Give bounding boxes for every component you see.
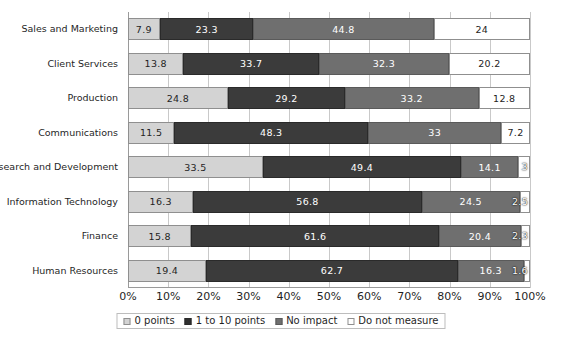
- bar-segment: 62.7: [206, 260, 458, 282]
- legend-item[interactable]: Do not measure: [347, 316, 438, 326]
- gridline-100: [530, 12, 531, 288]
- bar-segment: 2.3: [521, 225, 530, 247]
- bar-segment: 7.9: [128, 18, 160, 40]
- bar-value-label: 23.3: [195, 25, 217, 35]
- bar-segment: 44.8: [253, 18, 433, 40]
- x-tick-label: 80%: [437, 290, 461, 303]
- legend-label: 1 to 10 points: [196, 316, 265, 326]
- bar-value-label: 44.8: [332, 25, 354, 35]
- bar-row: 11.548.3337.2: [128, 122, 530, 144]
- category-label: Communications: [38, 122, 118, 144]
- legend-label: 0 points: [134, 316, 174, 326]
- bar-segment: 3: [518, 156, 530, 178]
- bar-segment: 2.5: [520, 191, 530, 213]
- category-label: Client Services: [47, 53, 118, 75]
- legend-swatch-icon: [185, 318, 192, 325]
- legend-label: No impact: [286, 316, 337, 326]
- category-label: Human Resources: [32, 260, 118, 282]
- category-label: Sales and Marketing: [21, 18, 118, 40]
- bar-value-label: 14.1: [478, 163, 500, 173]
- bar-value-label: 16.3: [480, 266, 502, 276]
- bar-value-label: 2.3: [512, 232, 528, 242]
- bar-value-label: 48.3: [260, 128, 282, 138]
- legend-swatch-icon: [123, 318, 130, 325]
- legend-swatch-icon: [275, 318, 282, 325]
- bar-segment: 14.1: [461, 156, 518, 178]
- bar-segment: 48.3: [174, 122, 368, 144]
- bar-value-label: 20.4: [469, 232, 491, 242]
- bar-value-label: 62.7: [321, 266, 343, 276]
- bar-segment: 33.5: [128, 156, 263, 178]
- plot-area: 7.923.344.82413.833.732.320.224.829.233.…: [128, 12, 530, 288]
- bar-segment: 13.8: [128, 53, 183, 75]
- bar-value-label: 1.6: [512, 266, 528, 276]
- x-tick-label: 100%: [514, 290, 545, 303]
- bar-row: 15.861.620.42.3: [128, 225, 530, 247]
- category-label: Production: [67, 87, 118, 109]
- x-tick-label: 70%: [397, 290, 421, 303]
- bar-segment: 49.4: [263, 156, 462, 178]
- legend-swatch-icon: [347, 318, 354, 325]
- category-axis-labels: Sales and MarketingClient ServicesProduc…: [0, 12, 124, 288]
- bar-row: 16.356.824.52.5: [128, 191, 530, 213]
- bar-value-label: 20.2: [478, 59, 500, 69]
- bar-value-label: 61.6: [304, 232, 326, 242]
- bar-row: 7.923.344.824: [128, 18, 530, 40]
- bar-segment: 1.6: [524, 260, 530, 282]
- x-tick-label: 60%: [357, 290, 381, 303]
- bar-segment: 24.8: [128, 87, 228, 109]
- bar-row: 19.462.716.31.6: [128, 260, 530, 282]
- bar-value-label: 7.9: [136, 25, 152, 35]
- bar-segment: 24.5: [422, 191, 520, 213]
- bar-row: 13.833.732.320.2: [128, 53, 530, 75]
- bar-value-label: 33.2: [401, 94, 423, 104]
- bar-value-label: 24.5: [460, 197, 482, 207]
- bar-segment: 15.8: [128, 225, 191, 247]
- bar-segment: 11.5: [128, 122, 174, 144]
- bar-segment: 19.4: [128, 260, 206, 282]
- bar-segment: 32.3: [319, 53, 449, 75]
- x-tick-label: 40%: [277, 290, 301, 303]
- bar-value-label: 32.3: [373, 59, 395, 69]
- bar-value-label: 13.8: [145, 59, 167, 69]
- x-tick-label: 50%: [317, 290, 341, 303]
- bar-segment: 7.2: [501, 122, 530, 144]
- bar-value-label: 29.2: [275, 94, 297, 104]
- x-tick-label: 0%: [119, 290, 136, 303]
- bar-segment: 12.8: [479, 87, 530, 109]
- bar-value-label: 24: [475, 25, 488, 35]
- legend-item[interactable]: 0 points: [123, 316, 174, 326]
- bar-value-label: 15.8: [149, 232, 171, 242]
- bar-value-label: 7.2: [507, 128, 523, 138]
- bar-segment: 20.2: [449, 53, 530, 75]
- bar-value-label: 24.8: [167, 94, 189, 104]
- bar-value-label: 56.8: [296, 197, 318, 207]
- category-label: Information Technology: [7, 191, 118, 213]
- bar-value-label: 3: [522, 163, 528, 173]
- bar-segment: 56.8: [193, 191, 421, 213]
- chart-legend: 0 points1 to 10 pointsNo impactDo not me…: [116, 313, 445, 329]
- x-tick-label: 90%: [478, 290, 502, 303]
- x-tick-label: 20%: [196, 290, 220, 303]
- bar-value-label: 19.4: [156, 266, 178, 276]
- legend-item[interactable]: 1 to 10 points: [185, 316, 265, 326]
- x-axis-line: [128, 287, 530, 288]
- stacked-bar-chart: Sales and MarketingClient ServicesProduc…: [0, 0, 562, 343]
- bar-value-label: 11.5: [140, 128, 162, 138]
- bar-segment: 24: [434, 18, 530, 40]
- bar-value-label: 16.3: [150, 197, 172, 207]
- bar-series-container: 7.923.344.82413.833.732.320.224.829.233.…: [128, 12, 530, 288]
- bar-segment: 33.7: [183, 53, 318, 75]
- category-label: Research and Development: [0, 156, 118, 178]
- bar-value-label: 2.5: [512, 197, 528, 207]
- bar-value-label: 33.5: [184, 163, 206, 173]
- bar-segment: 61.6: [191, 225, 438, 247]
- legend-item[interactable]: No impact: [275, 316, 337, 326]
- bar-row: 24.829.233.212.8: [128, 87, 530, 109]
- x-axis-tick-labels: 0%10%20%30%40%50%60%70%80%90%100%: [128, 290, 530, 306]
- bar-segment: 16.3: [128, 191, 193, 213]
- bar-segment: 33: [368, 122, 501, 144]
- bar-segment: 33.2: [345, 87, 478, 109]
- bar-row: 33.549.414.13: [128, 156, 530, 178]
- legend-label: Do not measure: [358, 316, 438, 326]
